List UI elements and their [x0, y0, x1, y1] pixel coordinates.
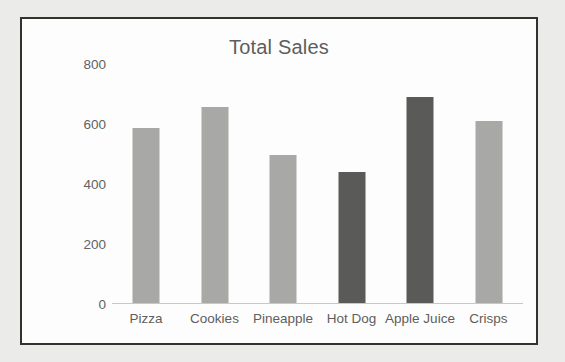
bar-cookies [201, 107, 228, 303]
y-tick-label: 0 [98, 297, 106, 312]
y-axis: 800 600 400 200 0 [68, 64, 112, 304]
y-tick-label: 600 [83, 117, 106, 132]
bar-slot [318, 64, 386, 303]
bar-slot [112, 64, 180, 303]
bars-area [112, 64, 523, 304]
x-axis-line [112, 303, 523, 304]
bar-slot [181, 64, 249, 303]
bar-slot [386, 64, 454, 303]
bar-hot-dog [338, 172, 365, 303]
bar-pizza [133, 128, 160, 303]
x-axis-labels: Pizza Cookies Pineapple Hot Dog Apple Ju… [68, 311, 523, 335]
bar-slot [249, 64, 317, 303]
chart-frame: Total Sales 800 600 400 200 0 [20, 17, 538, 345]
bar-slot [455, 64, 523, 303]
bar-crisps [475, 121, 502, 303]
y-tick-label: 400 [83, 177, 106, 192]
plot-area: 800 600 400 200 0 [68, 64, 523, 304]
x-label-crisps: Crisps [444, 311, 534, 326]
y-tick-label: 200 [83, 237, 106, 252]
y-tick-label: 800 [83, 57, 106, 72]
bar-apple-juice [407, 97, 434, 303]
bar-pineapple [270, 155, 297, 303]
